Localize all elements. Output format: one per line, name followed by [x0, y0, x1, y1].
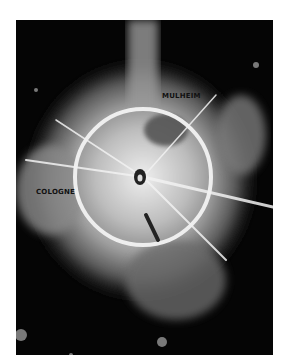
aerial-photo: MULHEIM COLOGNE	[16, 20, 273, 355]
label-mulheim: MULHEIM	[162, 92, 201, 100]
label-cologne: COLOGNE	[36, 188, 75, 196]
